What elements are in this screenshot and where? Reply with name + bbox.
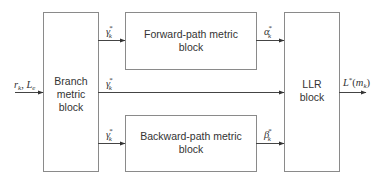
branch-label-2: metric [57,88,86,100]
decoder-block-diagram: Branch metric block Forward-path metric … [0,0,385,181]
llr-label-1: LLR [302,78,322,90]
llr-block: LLR block [285,13,340,172]
branch-label-1: Branch [54,75,87,87]
gamma-top-label: γ*k [106,24,113,40]
llr-label-2: block [300,91,325,103]
backward-label-2: block [179,143,204,155]
forward-label-1: Forward-path metric [144,28,238,40]
forward-label-2: block [179,41,204,53]
gamma-bot-label: γ*k [106,127,113,143]
alpha-label: α*k [264,24,273,40]
svg-text:block: block [300,91,325,103]
backward-path-metric-block: Backward-path metric block [126,116,257,172]
svg-text:metric: metric [57,88,86,100]
branch-label-3: block [59,101,84,113]
svg-text:Backward-path metric: Backward-path metric [140,130,242,142]
svg-text:block: block [59,101,84,113]
beta-label: β*k [263,127,272,143]
svg-text:Forward-path metric: Forward-path metric [144,28,238,40]
forward-path-metric-block: Forward-path metric block [126,13,257,70]
output-label: L*(mk) [342,76,371,90]
svg-text:block: block [179,143,204,155]
gamma-mid-label: γ*k [106,76,113,92]
branch-metric-block: Branch metric block [44,13,99,172]
svg-text:LLR: LLR [302,78,322,90]
svg-text:block: block [179,41,204,53]
backward-label-1: Backward-path metric [140,130,242,142]
svg-text:Branch: Branch [54,75,87,87]
input-label: rk, Le [14,79,35,92]
